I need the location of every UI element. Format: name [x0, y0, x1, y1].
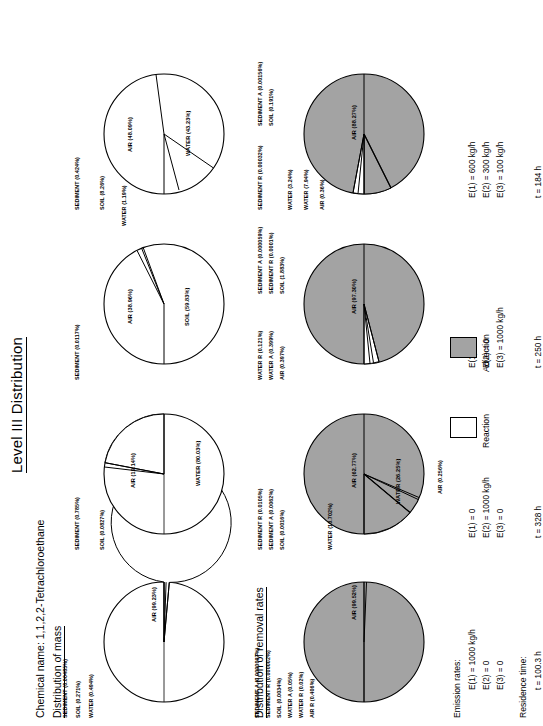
pie-label-removal-2-air: AIR (62.77%) [352, 453, 358, 488]
pie-label-removal-4-sediment-r: SEDIMENT R (0.00032%) [258, 145, 263, 210]
pie-label-removal-1-water-r: WATER R (0.02%) [299, 672, 304, 718]
pie-label-mass-3-soil: SOIL (59.83%) [185, 287, 191, 326]
pie-chart-removal-1 [300, 578, 428, 706]
pie-label-mass-1-soil: SOIL (0.271%) [76, 681, 81, 718]
page-title: Level III Distribution [8, 337, 27, 473]
pie-label-removal-2-soil: SOIL (0.0016%) [280, 510, 285, 550]
pie-label-mass-2-water: WATER (80.03%) [196, 441, 202, 486]
scenario-1-e1: E(1) = 1000 kg/h [468, 629, 477, 690]
pie-label-removal-4-soil: SOIL (0.191%) [269, 89, 274, 126]
pie-label-removal-4-air-r: AIR (0.36%) [320, 179, 325, 210]
pie-label-mass-4-sediment: SEDIMENT (0.424%) [75, 157, 80, 210]
scenario-4-e3: E(3) = 100 kg/h [496, 142, 505, 198]
legend-swatch-reaction [450, 417, 477, 438]
chemical-name-header: Chemical name: 1,1,2,2-Tetrachloroethane [34, 520, 46, 718]
pie-label-removal-1-air: AIR (99.52%) [352, 585, 358, 620]
scenario-4-e1: E(1) = 600 kg/h [468, 142, 477, 198]
scenario-2-e2: E(2) = 1000 kg/h [482, 477, 491, 538]
legend-label-advection: Advection [481, 334, 491, 372]
pie-label-removal-3-soil: SOIL (1.883%) [280, 257, 285, 294]
scenario-3-residence: t = 250 h [534, 336, 543, 368]
pie-label-removal-4-air: AIR (88.27%) [352, 105, 358, 140]
pie-label-mass-4-air: AIR (48.09%) [128, 117, 134, 152]
pie-label-removal-1-air-r: AIR R (0.406%) [310, 679, 315, 718]
pie-label-mass-3-air: AIR (38.96%) [128, 289, 134, 324]
pie-label-removal-3-air: AIR (97.30%) [352, 279, 358, 314]
pie-label-removal-4-water-r: WATER (3.24%) [288, 169, 293, 210]
pie-label-mass-1-sediment: SEDIMENT (0.00485%) [63, 659, 68, 718]
pie-label-mass-1-water: WATER (0.494%) [89, 674, 94, 718]
pie-label-removal-3-water-a: WATER A (0.399%) [269, 331, 274, 380]
scenario-1-e3: E(3) = 0 [496, 661, 505, 690]
scenario-4-e2: E(2) = 300 kg/h [482, 142, 491, 198]
pie-label-removal-4-water-a: WATER (7.94%) [304, 169, 309, 210]
pie-chart-mass-3 [100, 240, 228, 368]
pie-label-removal-2-sediment-a: SEDIMENT A (0.0062%) [269, 489, 274, 550]
pie-label-removal-2-water-r: WATER (10.702%) [328, 503, 333, 550]
pie-label-mass-4-soil: SOIL (8.26%) [100, 176, 105, 210]
scenario-4-residence: t = 184 h [534, 166, 543, 198]
scenario-3-e3: E(3) = 1000 kg/h [496, 307, 505, 368]
pie-chart-removal-3 [300, 240, 428, 368]
pie-label-removal-2-water: WATER (26.25%) [396, 459, 402, 504]
pie-label-removal-2-air-r: AIR (0.256%) [438, 460, 443, 494]
emission-rates-title: Emission rates: [452, 659, 462, 718]
residence-time-title: Residence time: [518, 656, 528, 718]
scenario-1-e2: E(2) = 0 [482, 661, 491, 690]
pie-label-mass-1-air: AIR (99.23%) [152, 587, 158, 622]
scenario-2-e1: E(1) = 0 [468, 509, 477, 538]
pie-label-removal-1-sediment-r: SEDIMENT R (0.000002%) [266, 650, 271, 718]
pie-chart-removal-2 [300, 410, 428, 538]
scenario-1-residence: t = 100.3 h [534, 651, 543, 690]
pie-label-mass-2-sediment: SEDIMENT (0.785%) [75, 497, 80, 550]
pie-label-removal-1-soil: SOIL (0.0034%) [277, 678, 282, 718]
pie-chart-mass-1 [100, 578, 228, 706]
pie-chart-mass-2 [100, 410, 228, 538]
scenario-2-e3: E(3) = 0 [496, 509, 505, 538]
pie-label-removal-2-sediment-r: SEDIMENT R (0.0105%) [258, 488, 263, 550]
pie-label-mass-4-water: WATER (43.23%) [186, 111, 192, 156]
pie-label-removal-4-sediment-a: SEDIMENT A (0.00156%) [258, 62, 263, 126]
pie-label-mass-3-sediment: SEDIMENT (0.0117%) [75, 324, 80, 380]
scenario-2-residence: t = 328 h [534, 506, 543, 538]
pie-label-removal-1-water-a: WATER A (0.05%) [288, 672, 293, 718]
pie-label-removal-3-water-r: WATER R (0.121%) [258, 331, 263, 380]
pie-label-removal-3-sediment-r: SEDIMENT R (0.0001%) [269, 232, 274, 294]
pie-chart-mass-4 [100, 70, 228, 198]
legend-label-reaction: Reaction [481, 414, 491, 448]
legend-swatch-advection [450, 337, 477, 358]
pie-label-mass-2-soil: SOIL (0.0827%) [100, 510, 105, 550]
pie-label-removal-1-sediment-a: SEDIMENT A (0.0000097%) [255, 647, 260, 718]
pie-label-removal-3-sediment-a: SEDIMENT A (0.000059%) [258, 227, 263, 294]
pie-label-removal-3-air-r: AIR (0.397%) [280, 346, 285, 380]
pie-label-mass-2-air: AIR (19.14%) [131, 453, 137, 488]
